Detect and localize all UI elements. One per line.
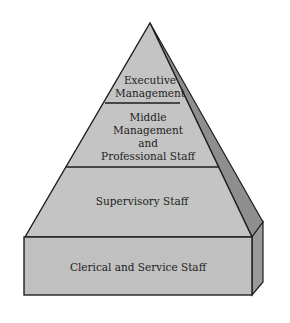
level-label: Professional Staff [101,150,196,162]
level-clerical: Clerical and Service Staff [70,261,208,273]
level-executive: Executive Management [115,74,186,99]
level-label: Executive [124,74,176,86]
level-supervisory: Supervisory Staff [96,195,190,207]
level-label: Supervisory Staff [96,195,190,207]
level-label: Middle [129,111,166,123]
level-label: Clerical and Service Staff [70,261,208,273]
level-label: Management [113,124,184,136]
level-label: and [138,137,158,149]
level-label: Management [115,87,186,99]
pyramid-diagram: Executive Management Middle Management a… [0,0,290,323]
